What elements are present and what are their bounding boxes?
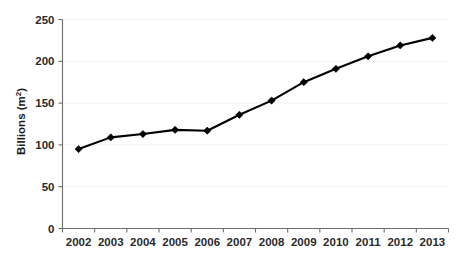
y-axis [59,20,63,229]
data-series [75,34,436,152]
x-axis-tick-label: 2005 [162,236,188,248]
data-point-marker [107,134,114,141]
x-axis-tick-label: 2007 [227,236,253,248]
x-axis-tick-label: 2003 [98,236,124,248]
x-axis-tick-label: 2011 [356,236,382,248]
series-line [79,38,433,149]
y-axis-ticks [59,20,63,229]
svg-text:Billions (m2): Billions (m2) [14,88,27,155]
x-axis-tick-label: 2002 [66,236,92,248]
y-axis-tick-label: 50 [42,181,55,193]
data-point-marker [429,34,436,41]
y-axis-tick-labels: 050100150200250 [35,14,54,235]
y-axis-tick-label: 250 [35,14,54,26]
chart-canvas: 050100150200250 200220032004200520062007… [0,0,456,260]
y-axis-title-tail: ) [15,88,27,92]
data-point-marker [171,126,178,133]
data-point-marker [236,111,243,118]
line-chart: 050100150200250 200220032004200520062007… [0,0,456,260]
x-axis [63,229,449,233]
x-axis-tick-label: 2006 [194,236,220,248]
data-point-marker [364,53,371,60]
x-axis-tick-label: 2009 [291,236,317,248]
data-point-marker [397,42,404,49]
y-axis-tick-label: 0 [48,223,54,235]
gridlines-group [63,20,449,187]
x-axis-tick-labels: 2002200320042005200620072008200920102011… [66,236,445,248]
data-point-marker [332,65,339,72]
y-axis-title-text: Billions (m [15,96,27,155]
x-axis-ticks [63,229,449,233]
y-axis-tick-label: 150 [35,97,54,109]
data-point-marker [139,130,146,137]
y-axis-tick-label: 200 [35,55,54,67]
x-axis-tick-label: 2008 [259,236,285,248]
x-axis-tick-label: 2004 [130,236,156,248]
y-axis-tick-label: 100 [35,139,54,151]
x-axis-tick-label: 2012 [387,236,413,248]
y-axis-title: Billions (m2) [14,88,27,155]
x-axis-tick-label: 2010 [323,236,349,248]
x-axis-tick-label: 2013 [420,236,446,248]
data-point-marker [75,145,82,152]
data-point-marker [204,127,211,134]
